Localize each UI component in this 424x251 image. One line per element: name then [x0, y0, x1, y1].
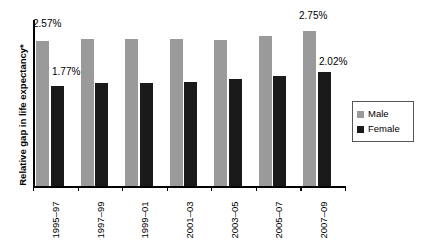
x-axis-tick: [211, 186, 212, 191]
data-label-female-1995-97: 1.77%: [52, 66, 80, 77]
plot-area: [33, 20, 345, 186]
bar-female-1999-01: [140, 83, 153, 186]
x-axis-tick: [122, 186, 123, 191]
x-axis-label-text: 2003–05: [228, 202, 239, 239]
bar-group: [122, 20, 167, 186]
y-axis-title-text: Relative gap in life expectancy*: [17, 44, 28, 186]
bar-male-2005-07: [259, 36, 272, 186]
legend-item-male: Male: [357, 107, 408, 121]
bar-female-2005-07: [273, 76, 286, 186]
data-label-male-2007-09: 2.75%: [299, 10, 327, 21]
legend-swatch-male-icon: [357, 111, 364, 118]
bar-chart: Relative gap in life expectancy* 1995–97…: [0, 0, 424, 251]
bar-male-2003-05: [214, 40, 227, 186]
bar-female-1995-97: [51, 86, 64, 186]
x-axis-label-1995-97: 1995–97: [48, 194, 62, 246]
bar-male-2001-03: [170, 39, 183, 186]
x-axis-tick: [256, 186, 257, 191]
x-axis-label-2003-05: 2003–05: [227, 194, 241, 246]
x-axis-label-text: 2005–07: [273, 202, 284, 239]
bar-female-2001-03: [184, 82, 197, 186]
x-axis-label-1997-99: 1997–99: [93, 194, 107, 246]
data-label-male-1995-97: 2.57%: [33, 18, 61, 29]
x-axis-line: [33, 186, 345, 188]
bar-male-2007-09: [303, 31, 316, 186]
x-axis-tick: [167, 186, 168, 191]
x-axis-label-text: 1999–01: [139, 202, 150, 239]
x-axis-label-text: 2001–03: [184, 202, 195, 239]
bar-female-2003-05: [229, 79, 242, 186]
x-axis-label-2005-07: 2005–07: [271, 194, 285, 246]
bar-group: [300, 20, 345, 186]
legend-item-female: Female: [357, 122, 408, 136]
x-axis-label-text: 1997–99: [94, 202, 105, 239]
x-axis-label-2001-03: 2001–03: [182, 194, 196, 246]
bar-group: [33, 20, 78, 186]
x-axis-tick: [33, 186, 34, 191]
x-axis-label-text: 1995–97: [50, 202, 61, 239]
x-axis-tick: [300, 186, 301, 191]
x-axis-label-text: 2007–09: [317, 202, 328, 239]
x-axis-label-1999-01: 1999–01: [137, 194, 151, 246]
bar-group: [167, 20, 212, 186]
bar-male-1999-01: [125, 39, 138, 186]
data-label-female-2007-09: 2.02%: [319, 56, 347, 67]
x-axis-label-2007-09: 2007–09: [316, 194, 330, 246]
legend-label-female: Female: [368, 124, 400, 134]
y-axis-title: Relative gap in life expectancy*: [14, 42, 30, 188]
bar-group: [211, 20, 256, 186]
legend: Male Female: [352, 101, 414, 142]
x-axis-tick: [78, 186, 79, 191]
bar-group: [256, 20, 301, 186]
bar-group: [78, 20, 123, 186]
x-axis-tick: [345, 186, 346, 191]
bar-female-2007-09: [318, 72, 331, 186]
bar-male-1995-97: [36, 41, 49, 186]
legend-swatch-female-icon: [357, 126, 364, 133]
bar-male-1997-99: [81, 39, 94, 186]
bar-female-1997-99: [95, 83, 108, 186]
legend-label-male: Male: [368, 109, 389, 119]
